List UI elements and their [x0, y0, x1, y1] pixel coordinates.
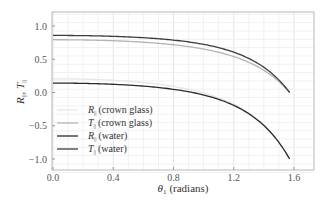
y-tick-label: 0.0	[35, 87, 48, 98]
y-tick-label: −0.5	[29, 120, 47, 131]
x-axis-label: θ1(radians)	[158, 182, 209, 196]
legend-label: R||(water)	[87, 130, 127, 142]
y-tick-label: 1.0	[35, 21, 48, 32]
y-axis-ticks: −1.0−0.50.00.51.0	[29, 21, 55, 165]
chart: −1.0−0.50.00.51.0 0.00.40.81.21.6 R||, T…	[0, 0, 330, 203]
y-tick-label: −1.0	[29, 154, 47, 165]
y-axis-label: R||, T||	[14, 80, 28, 105]
x-tick-label: 0.0	[47, 172, 60, 183]
x-tick-label: 1.6	[288, 172, 301, 183]
x-tick-label: 1.2	[228, 172, 241, 183]
legend-label: T||(crown glass)	[88, 117, 152, 129]
y-tick-label: 0.5	[35, 54, 48, 65]
x-tick-label: 0.4	[107, 172, 120, 183]
